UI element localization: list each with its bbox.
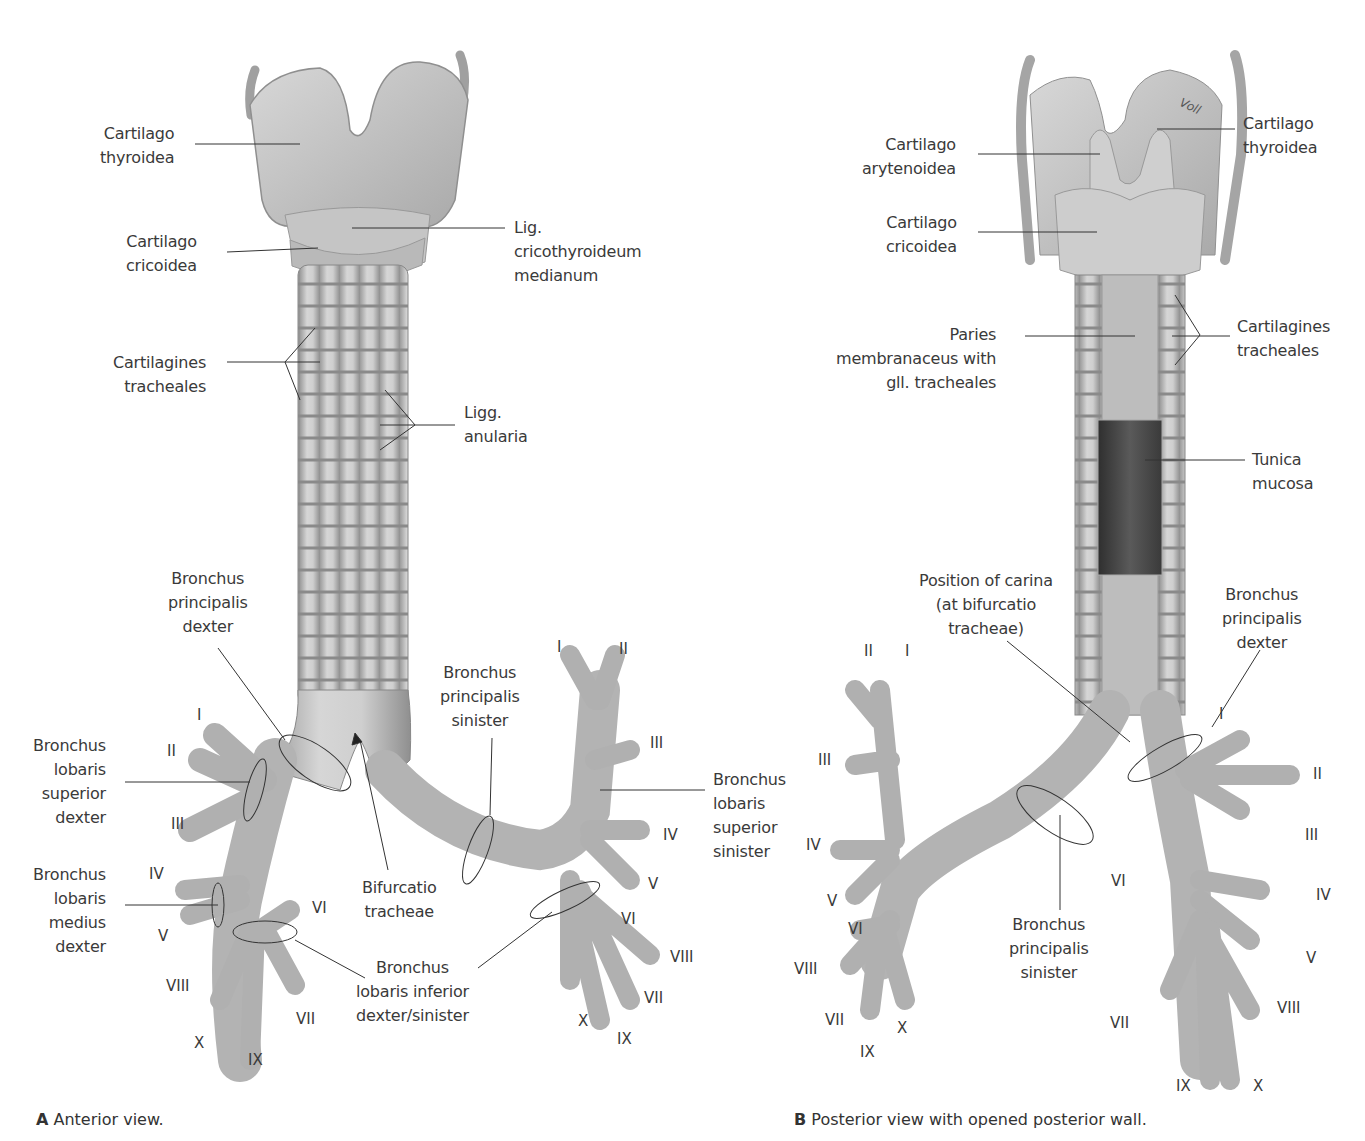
caption-a-text: Anterior view.: [53, 1110, 163, 1129]
label-b-cartilago-arytenoidea: Cartilago arytenoidea: [862, 133, 956, 181]
segment-b-left-4: IV: [806, 836, 821, 854]
segment-a-right-10: X: [194, 1034, 204, 1052]
label-a-bronchus-lobaris-superior-dexter: Bronchus lobaris superior dexter: [33, 734, 106, 830]
label-a-bronchus-lobaris-superior-sinister: Bronchus lobaris superior sinister: [713, 768, 786, 864]
caption-b: B Posterior view with opened posterior w…: [794, 1110, 1147, 1129]
segment-a-right-9: IX: [248, 1051, 263, 1069]
segment-a-right-5: V: [158, 927, 168, 945]
label-a-cartilago-thyroidea: Cartilago thyroidea: [100, 122, 174, 170]
label-a-cartilago-cricoidea: Cartilago cricoidea: [126, 230, 197, 278]
segment-a-right-1: I: [197, 706, 201, 724]
segment-a-right-8: VIII: [166, 977, 190, 995]
segment-b-right-1: I: [1219, 705, 1223, 723]
segment-b-left-9: IX: [860, 1043, 875, 1061]
segment-a-left-1: I: [557, 638, 561, 656]
segment-b-left-7: VII: [825, 1011, 844, 1029]
segment-a-left-2: II: [619, 640, 628, 658]
label-a-lig-cricothyroideum: Lig. cricothyroideum medianum: [514, 216, 641, 288]
label-a-bronchus-lobaris-medius-dexter: Bronchus lobaris medius dexter: [33, 863, 106, 959]
caption-b-text: Posterior view with opened posterior wal…: [811, 1110, 1147, 1129]
label-b-bronchus-principalis-sinister: Bronchus principalis sinister: [1009, 913, 1089, 985]
segment-b-left-5: V: [827, 892, 837, 910]
segment-a-left-3: III: [650, 734, 663, 752]
segment-b-left-1: I: [905, 642, 909, 660]
segment-b-right-5: V: [1306, 949, 1316, 967]
segment-b-right-10: X: [1253, 1077, 1263, 1095]
label-a-ligg-anularia: Ligg. anularia: [464, 401, 528, 449]
segment-b-right-6: VI: [1111, 872, 1126, 890]
label-b-cartilagines-tracheales: Cartilagines tracheales: [1237, 315, 1330, 363]
segment-a-right-3: III: [171, 815, 184, 833]
segment-b-right-4: IV: [1316, 886, 1331, 904]
segment-a-right-7: VII: [296, 1010, 315, 1028]
label-a-bronchus-principalis-sinister: Bronchus principalis sinister: [440, 661, 520, 733]
label-a-bronchus-principalis-dexter: Bronchus principalis dexter: [168, 567, 248, 639]
label-a-bronchus-lobaris-inferior: Bronchus lobaris inferior dexter/siniste…: [356, 956, 469, 1028]
segment-a-left-9: IX: [617, 1030, 632, 1048]
segment-a-left-10: X: [578, 1012, 588, 1030]
segment-a-left-6: VI: [621, 910, 636, 928]
segment-b-left-3: III: [818, 751, 831, 769]
segment-a-left-4: IV: [663, 826, 678, 844]
segment-b-right-7: VII: [1110, 1014, 1129, 1032]
label-b-cartilago-thyroidea: Cartilago thyroidea: [1243, 112, 1317, 160]
label-a-bifurcatio-tracheae: Bifurcatio tracheae: [362, 876, 437, 924]
segment-a-right-6: VI: [312, 899, 327, 917]
label-a-cartilagines-tracheales: Cartilagines tracheales: [113, 351, 206, 399]
label-b-tunica-mucosa: Tunica mucosa: [1252, 448, 1313, 496]
label-b-cartilago-cricoidea: Cartilago cricoidea: [886, 211, 957, 259]
caption-b-letter: B: [794, 1110, 806, 1129]
caption-a: A Anterior view.: [36, 1110, 164, 1129]
segment-b-left-2: II: [864, 642, 873, 660]
segment-a-left-7: VII: [644, 989, 663, 1007]
segment-b-left-10: X: [897, 1019, 907, 1037]
segment-b-right-8: VIII: [1277, 999, 1301, 1017]
segment-b-left-6: VI: [848, 920, 863, 938]
segment-a-left-8: VIII: [670, 948, 694, 966]
segment-b-left-8: VIII: [794, 960, 818, 978]
caption-a-letter: A: [36, 1110, 48, 1129]
label-b-position-of-carina: Position of carina (at bifurcatio trache…: [919, 569, 1053, 641]
segment-b-right-2: II: [1313, 765, 1322, 783]
segment-a-right-2: II: [167, 742, 176, 760]
label-b-paries-membranaceus: Paries membranaceus with gll. tracheales: [836, 323, 996, 395]
segment-a-right-4: IV: [149, 865, 164, 883]
segment-a-left-5: V: [648, 875, 658, 893]
segment-b-right-9: IX: [1176, 1077, 1191, 1095]
label-b-bronchus-principalis-dexter: Bronchus principalis dexter: [1222, 583, 1302, 655]
segment-b-right-3: III: [1305, 826, 1318, 844]
